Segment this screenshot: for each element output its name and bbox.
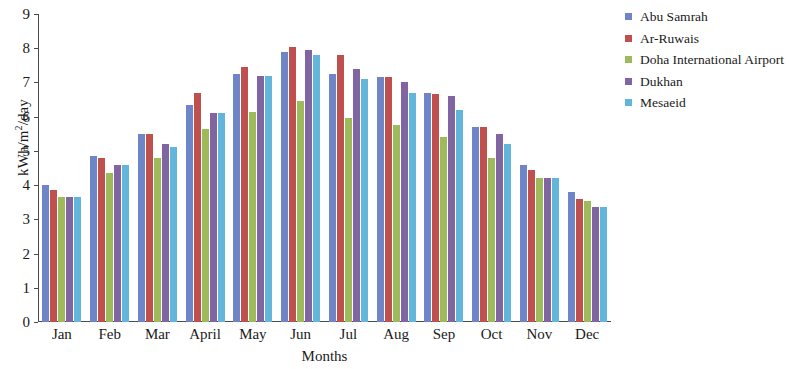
bar [265,76,272,322]
bar [488,158,495,322]
bar-group [181,14,229,322]
bar-group [420,14,468,322]
bar [480,127,487,322]
bar [456,110,463,322]
bar [440,137,447,322]
bar [66,197,73,322]
legend-swatch-icon [625,13,632,20]
x-axis-tick-label: May [229,326,277,343]
bar [576,199,583,322]
legend-item: Dukhan [625,71,789,93]
y-axis-tick-label: 1 [10,280,30,295]
bar [424,93,431,322]
bar-group [325,14,373,322]
x-axis-tick-label: Nov [516,326,564,343]
x-axis-tick-label: Dec [563,326,611,343]
bar [528,170,535,322]
bar [218,113,225,322]
bar [432,94,439,322]
bar [241,67,248,322]
bar [536,178,543,322]
bar-groups [38,14,611,322]
bar [448,96,455,322]
bar [114,165,121,322]
bar [170,147,177,322]
bar [361,79,368,322]
x-axis-tick-label: Mar [134,326,182,343]
bar-group [277,14,325,322]
legend-swatch-icon [625,78,632,85]
x-axis-tick-label: Sep [420,326,468,343]
solar-irradiance-bar-chart: kWh/m2/day 0123456789 JanFebMarAprilMayJ… [0,0,789,369]
bar [377,77,384,322]
bar [600,207,607,322]
bar-group [38,14,86,322]
x-axis-title: Months [38,348,611,365]
bar [146,134,153,322]
y-axis-title-exponent: 2 [13,125,24,130]
bar [281,52,288,322]
bar [552,178,559,322]
bar [106,173,113,322]
bar [353,69,360,322]
y-axis-tick-label: 7 [10,75,30,90]
bar [210,113,217,322]
legend-swatch-icon [625,35,632,42]
bar-group [516,14,564,322]
x-axis-tick-label: Jan [38,326,86,343]
y-axis-tick-label: 4 [10,178,30,193]
bar [504,144,511,322]
bar [98,158,105,322]
legend-item: Abu Samrah [625,6,789,28]
bar [202,129,209,322]
bar [520,165,527,322]
bar-group [372,14,420,322]
bar [337,55,344,322]
bar-group [134,14,182,322]
legend-item: Mesaeid [625,92,789,114]
legend-swatch-icon [625,99,632,106]
y-axis-tick-mark [34,322,38,323]
bar-group [229,14,277,322]
y-axis-tick-label: 2 [10,246,30,261]
bar [544,178,551,322]
legend-label: Abu Samrah [640,10,708,24]
bar [393,125,400,322]
bar [385,77,392,322]
y-axis-tick-label: 0 [10,315,30,330]
bar [154,158,161,322]
bar [249,112,256,322]
bar [297,101,304,322]
legend-swatch-icon [625,56,632,63]
legend-label: Dukhan [640,75,683,89]
bar [401,82,408,322]
bar [289,47,296,322]
bar-group [563,14,611,322]
y-axis-tick-label: 5 [10,143,30,158]
x-axis-tick-labels: JanFebMarAprilMayJunJulAugSepOctNovDec [38,326,611,343]
bar [472,127,479,322]
bar [345,118,352,322]
bar [568,192,575,322]
y-axis-tick-label: 8 [10,41,30,56]
bar [313,55,320,322]
bar [42,185,49,322]
legend-label: Ar-Ruwais [640,32,699,46]
legend-label: Mesaeid [640,96,686,110]
y-axis-tick-label: 9 [10,7,30,22]
plot-area: 0123456789 [38,14,611,322]
x-axis-tick-label: Jul [325,326,373,343]
bar-group [86,14,134,322]
bar [305,50,312,322]
x-axis-tick-label: Aug [372,326,420,343]
legend-label: Doha International Airport [640,53,784,67]
bar [592,207,599,322]
x-axis-tick-label: Feb [86,326,134,343]
bar [329,74,336,322]
bar [58,197,65,322]
bar [90,156,97,322]
y-axis-tick-label: 6 [10,109,30,124]
bar [74,197,81,322]
x-axis-tick-label: Oct [468,326,516,343]
bar [409,93,416,322]
